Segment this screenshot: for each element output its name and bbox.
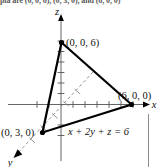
x-axis-arrowhead: [143, 102, 150, 108]
z-axis: [58, 14, 65, 161]
label-x-intercept: (6, 0, 0): [118, 90, 152, 102]
coordinate-diagram: (0, 0, 6) (6, 0, 0) (0, 3, 0) x + 2y + z…: [0, 6, 161, 167]
y-axis-arrowhead: [14, 149, 23, 158]
plane-triangle: [43, 43, 132, 133]
vertex-dot-x-intercept: [129, 102, 134, 107]
plane-equation-label: x + 2y + z = 6: [67, 126, 130, 137]
axis-label-y: y: [7, 157, 13, 167]
clipped-header-text: pla are (0, 0, 6), (0, 3, 0), and (6, 0,…: [0, 0, 161, 5]
axis-label-x: x: [151, 99, 157, 110]
figure-page: pla are (0, 0, 6), (0, 3, 0), and (6, 0,…: [0, 0, 161, 167]
label-z-intercept: (0, 0, 6): [66, 37, 100, 49]
axis-label-z: z: [54, 6, 59, 17]
label-y-intercept: (0, 3, 0): [1, 127, 35, 139]
diagram-svg: (0, 0, 6) (6, 0, 0) (0, 3, 0) x + 2y + z…: [0, 6, 161, 167]
vertex-dot-y-intercept: [40, 130, 45, 135]
vertex-dot-z-intercept: [59, 40, 64, 45]
